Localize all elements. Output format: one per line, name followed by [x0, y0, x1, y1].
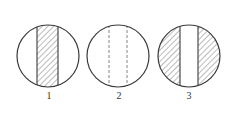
panel-label-1: 1	[39, 90, 59, 102]
panel-label-2: 2	[109, 90, 129, 102]
panel-label-3: 3	[179, 90, 199, 102]
hatched-left-segment	[155, 20, 180, 92]
hatched-band	[37, 20, 58, 92]
hatched-right-segment	[198, 20, 223, 92]
panel-1	[17, 20, 79, 92]
panel-3	[155, 20, 223, 92]
figure-three-circles: 1 2 3	[0, 0, 232, 113]
circle-outline	[87, 25, 149, 87]
panel-2	[87, 20, 149, 92]
